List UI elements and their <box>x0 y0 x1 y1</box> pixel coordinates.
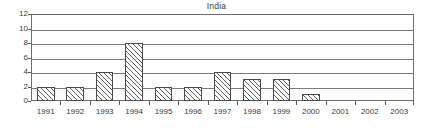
x-tick-2001 <box>326 101 327 105</box>
x-tick-1998 <box>237 101 238 105</box>
x-axis-tick-label: 1999 <box>267 107 296 117</box>
bar-chart: India 024681012 199119921993199419951996… <box>0 0 433 128</box>
x-axis-tick-label: 2002 <box>355 107 384 117</box>
x-tick-1999 <box>267 101 268 105</box>
x-axis-tick-label: 2003 <box>385 107 414 117</box>
x-tick-2000 <box>296 101 297 105</box>
x-tick-end <box>413 101 414 105</box>
x-axis-tick-label: 2001 <box>326 107 355 117</box>
x-axis-tick-label: 1997 <box>208 107 237 117</box>
x-axis-tick-label: 1991 <box>31 107 60 117</box>
x-tick-2003 <box>385 101 386 105</box>
x-tick-2002 <box>355 101 356 105</box>
x-axis-tick-label: 2000 <box>296 107 325 117</box>
x-axis-tick-label: 1994 <box>119 107 148 117</box>
x-tick-1993 <box>90 101 91 105</box>
x-axis-labels: 1991199219931994199519961997199819992000… <box>0 107 433 121</box>
x-axis-tick-label: 1992 <box>60 107 89 117</box>
x-tick-1992 <box>60 101 61 105</box>
x-tick-1997 <box>208 101 209 105</box>
x-axis-tick-label: 1996 <box>178 107 207 117</box>
x-tick-1994 <box>119 101 120 105</box>
x-tick-1995 <box>149 101 150 105</box>
x-axis-tick-label: 1995 <box>149 107 178 117</box>
x-tick-1996 <box>178 101 179 105</box>
x-axis-tick-label: 1993 <box>90 107 119 117</box>
x-axis-tick-label: 1998 <box>237 107 266 117</box>
